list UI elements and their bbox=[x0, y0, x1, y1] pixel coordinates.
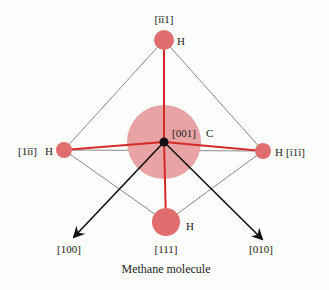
bonds bbox=[64, 40, 263, 222]
label-bottom-h: H bbox=[186, 220, 194, 232]
label-carbon-direction: [001] bbox=[172, 127, 196, 139]
hydrogen-atom-left bbox=[56, 142, 72, 158]
label-bottom-direction: [111] bbox=[154, 243, 177, 255]
label-top-direction: [īī1] bbox=[155, 13, 174, 25]
axis-100-arrow bbox=[74, 142, 164, 237]
hydrogen-atom-right bbox=[255, 143, 271, 159]
methane-diagram: [īī1] H H [1īī] H [ī1ī] H [111] [001] C … bbox=[0, 0, 329, 290]
label-axis-010: [010] bbox=[249, 243, 273, 255]
label-left-h: H bbox=[45, 145, 53, 157]
hydrogen-atom-top bbox=[154, 30, 174, 50]
diagram-caption: Methane molecule bbox=[122, 262, 211, 276]
label-axis-100: [100] bbox=[57, 243, 81, 255]
center-dot bbox=[160, 138, 169, 147]
label-right-h: H bbox=[275, 146, 283, 158]
label-left-direction: [1īī] bbox=[18, 145, 37, 157]
label-right-direction: [ī1ī] bbox=[286, 146, 305, 158]
label-carbon-symbol: C bbox=[206, 127, 213, 139]
hydrogen-atom-bottom bbox=[152, 208, 180, 236]
label-top-h: H bbox=[177, 35, 185, 47]
